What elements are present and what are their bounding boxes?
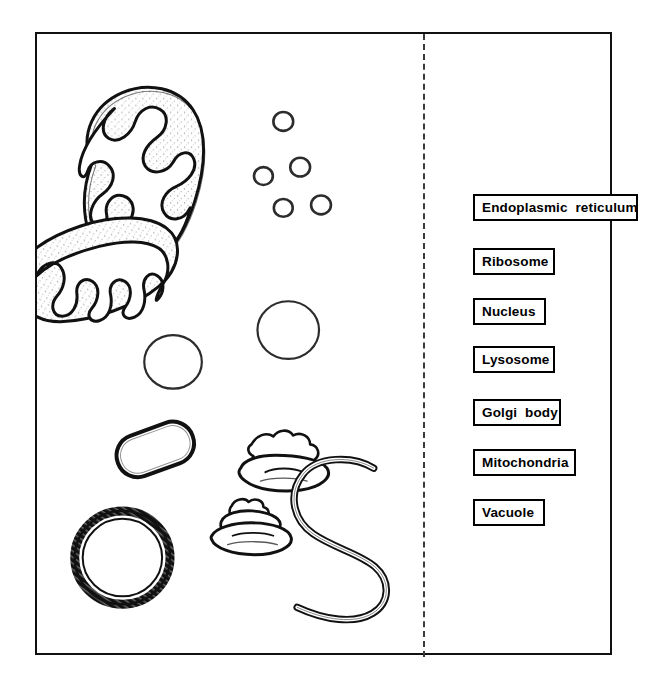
label-box-vacuole[interactable]: Vacuole [473,499,545,526]
ribosome-3 [290,158,310,177]
vacuole-shape [111,416,200,483]
ribosome-1 [273,112,293,131]
dashed-divider [423,34,425,657]
label-text-endoplasmic-reticulum: Endoplasmic reticulum [482,200,638,215]
ribosome-cluster-shape [254,112,331,217]
ribosome-2 [254,167,273,185]
worksheet-frame: Endoplasmic reticulum Ribosome Nucleus L… [35,32,612,655]
label-box-endoplasmic-reticulum[interactable]: Endoplasmic reticulum [473,194,638,221]
label-box-nucleus[interactable]: Nucleus [473,298,546,325]
label-text-lysosome: Lysosome [482,352,549,367]
label-text-mitochondria: Mitochondria [482,455,569,470]
label-box-golgi-body[interactable]: Golgi body [473,399,561,426]
label-text-nucleus: Nucleus [482,304,536,319]
ribosome-5 [311,195,331,214]
nucleus-shape [75,511,170,604]
label-text-vacuole: Vacuole [482,505,534,520]
label-column: Endoplasmic reticulum Ribosome Nucleus L… [437,34,614,653]
label-box-mitochondria[interactable]: Mitochondria [473,449,576,476]
lysosome-right-shape [257,301,319,359]
label-box-lysosome[interactable]: Lysosome [473,346,555,373]
mitochondrion-lower-shape [37,206,188,335]
label-box-ribosome[interactable]: Ribosome [473,248,555,275]
ribosome-4 [274,199,293,217]
label-text-ribosome: Ribosome [482,254,548,269]
label-text-golgi-body: Golgi body [482,405,558,420]
lysosome-left-shape [144,335,202,389]
golgi-body-lower-shape [211,499,291,554]
